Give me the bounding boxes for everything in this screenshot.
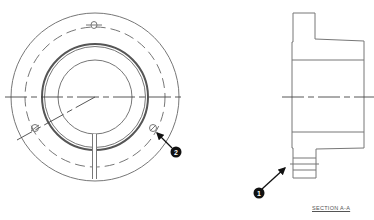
callout-1-arrow xyxy=(262,168,285,189)
section-outline xyxy=(292,13,364,148)
callout-1: 1 xyxy=(254,168,286,199)
drawing-canvas: 2 1 xyxy=(0,0,374,220)
hub-outline xyxy=(293,148,364,178)
front-view xyxy=(5,13,184,181)
section-label: SECTION A-A xyxy=(312,205,350,211)
slot-mask xyxy=(93,134,97,180)
callout-1-number: 1 xyxy=(257,190,261,197)
section-view xyxy=(282,13,374,178)
bolt-hole-right-mark xyxy=(150,125,156,131)
callout-2-number: 2 xyxy=(174,149,178,156)
